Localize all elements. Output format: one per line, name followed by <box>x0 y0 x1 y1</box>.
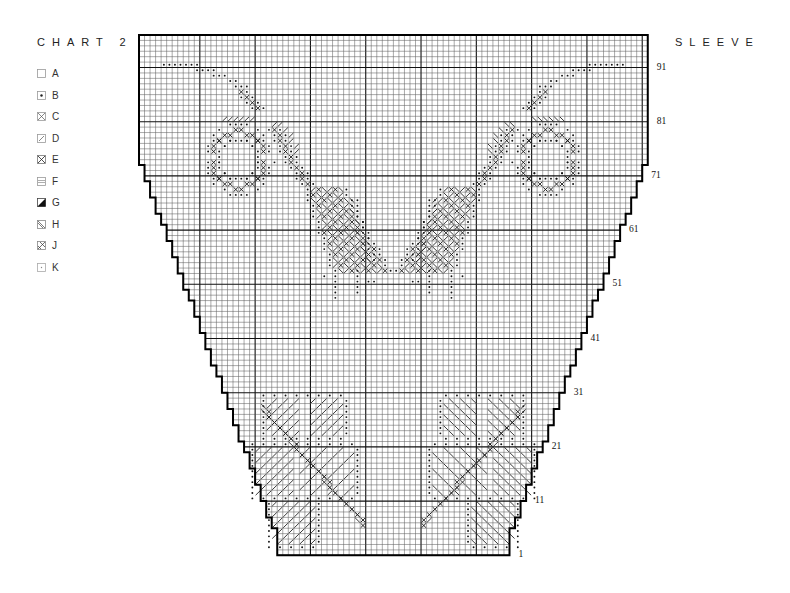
row-label: 91 <box>657 62 667 72</box>
row-label: 11 <box>535 495 544 505</box>
row-label: 61 <box>629 224 639 234</box>
grid-minor-lines <box>139 35 648 555</box>
row-label: 21 <box>552 441 562 451</box>
row-label: 81 <box>657 116 667 126</box>
row-label: 41 <box>590 333 600 343</box>
row-label: 31 <box>574 387 584 397</box>
row-label: 51 <box>613 278 623 288</box>
row-label: 71 <box>651 170 661 180</box>
knitting-chart-grid: 1112131415161718191 <box>0 0 790 593</box>
row-label: 1 <box>519 549 524 559</box>
